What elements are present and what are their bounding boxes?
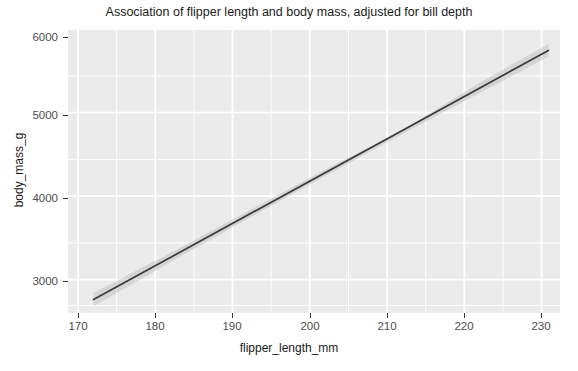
x-tick-mark-210 xyxy=(387,313,388,318)
x-tick-label-190: 190 xyxy=(202,320,262,332)
y-tick-mark-6000 xyxy=(63,37,68,38)
x-tick-label-200: 200 xyxy=(280,320,340,332)
plot-canvas xyxy=(68,29,560,313)
y-tick-mark-5000 xyxy=(63,115,68,116)
plot-panel xyxy=(68,29,560,313)
y-tick-label-3000: 3000 xyxy=(12,275,58,287)
page-title: Association of flipper length and body m… xyxy=(0,4,578,20)
x-tick-label-170: 170 xyxy=(48,320,108,332)
regression-line xyxy=(94,50,549,299)
x-tick-mark-230 xyxy=(541,313,542,318)
x-tick-label-230: 230 xyxy=(511,320,571,332)
x-tick-mark-180 xyxy=(155,313,156,318)
x-tick-mark-220 xyxy=(464,313,465,318)
x-tick-mark-190 xyxy=(232,313,233,318)
chart-figure: Association of flipper length and body m… xyxy=(0,0,578,371)
y-tick-label-6000: 6000 xyxy=(12,31,58,43)
y-tick-mark-4000 xyxy=(63,198,68,199)
x-tick-mark-170 xyxy=(78,313,79,318)
x-axis-title: flipper_length_mm xyxy=(0,341,578,355)
y-tick-mark-3000 xyxy=(63,281,68,282)
y-axis-title: body_mass_g xyxy=(12,90,26,250)
x-tick-label-220: 220 xyxy=(434,320,494,332)
x-tick-label-210: 210 xyxy=(357,320,417,332)
grid-major-horizontal xyxy=(68,29,560,280)
x-tick-label-180: 180 xyxy=(125,320,185,332)
x-tick-mark-200 xyxy=(310,313,311,318)
